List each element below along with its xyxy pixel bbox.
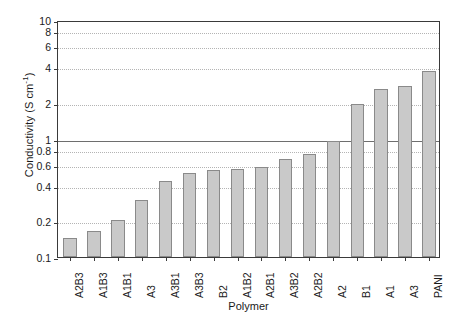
y-tick-mark <box>54 152 58 153</box>
y-tick-label: 8 <box>45 26 51 38</box>
bar <box>231 169 244 257</box>
x-tick-label: A1B2 <box>241 272 253 298</box>
bar <box>327 141 340 257</box>
bar <box>63 238 76 257</box>
plot-area <box>57 21 440 258</box>
x-axis-title: Polymer <box>57 300 440 312</box>
x-tick-label: A3B2 <box>288 272 300 298</box>
bar <box>255 167 268 257</box>
y-tick-mark <box>54 223 58 224</box>
bar <box>374 89 387 257</box>
bar <box>159 181 172 257</box>
x-tick-label: A1B1 <box>121 272 133 298</box>
x-tick-label: A2B1 <box>264 272 276 298</box>
x-tick-label: A3B3 <box>193 272 205 298</box>
bar <box>279 159 292 257</box>
y-tick-label: 0.2 <box>36 216 51 228</box>
y-tick-mark <box>54 188 58 189</box>
y-tick-mark <box>54 105 58 106</box>
x-tick-label: B2 <box>217 285 229 298</box>
y-tick-mark <box>54 69 58 70</box>
conductivity-bar-chart: Conductivity (S cm-1) 0.10.20.40.60.8124… <box>0 0 452 322</box>
y-tick-label: 10 <box>39 15 51 27</box>
x-tick-label: A2B2 <box>312 272 324 298</box>
y-tick-label: 0.8 <box>36 145 51 157</box>
y-tick-label: 1 <box>45 134 51 146</box>
x-tick-label: B1 <box>360 285 372 298</box>
x-tick-label: A3 <box>145 285 157 298</box>
y-tick-mark <box>54 48 58 49</box>
y-tick-mark <box>54 167 58 168</box>
y-tick-label: 0.6 <box>36 160 51 172</box>
bar <box>183 173 196 257</box>
x-tick-label: PANI <box>432 274 444 298</box>
bar <box>303 154 316 257</box>
bar <box>351 104 364 257</box>
x-tick-label: A3 <box>408 285 420 298</box>
bar <box>422 71 435 257</box>
y-tick-mark <box>54 33 58 34</box>
y-tick-label: 4 <box>45 62 51 74</box>
bar <box>87 231 100 257</box>
gridline <box>58 33 439 34</box>
y-tick-label: 6 <box>45 41 51 53</box>
x-tick-label: A2B3 <box>73 272 85 298</box>
y-tick-mark <box>54 141 58 142</box>
x-tick-label: A1B3 <box>97 272 109 298</box>
bar <box>135 200 148 257</box>
y-tick-mark <box>54 22 58 23</box>
gridline <box>58 48 439 49</box>
x-tick-label: A3B1 <box>169 272 181 298</box>
bar <box>398 86 411 257</box>
x-tick-label: A2 <box>336 285 348 298</box>
gridline <box>58 69 439 70</box>
y-axis-tick-labels: 0.10.20.40.60.81246810 <box>0 0 56 322</box>
y-tick-label: 0.1 <box>36 252 51 264</box>
bar <box>207 170 220 257</box>
bar <box>111 220 124 257</box>
x-axis-tick-labels: A2B3A1B3A1B1A3A3B1A3B3B2A1B2A2B1A3B2A2B2… <box>57 258 440 304</box>
y-tick-label: 2 <box>45 98 51 110</box>
y-tick-label: 0.4 <box>36 181 51 193</box>
x-tick-label: A1 <box>384 285 396 298</box>
